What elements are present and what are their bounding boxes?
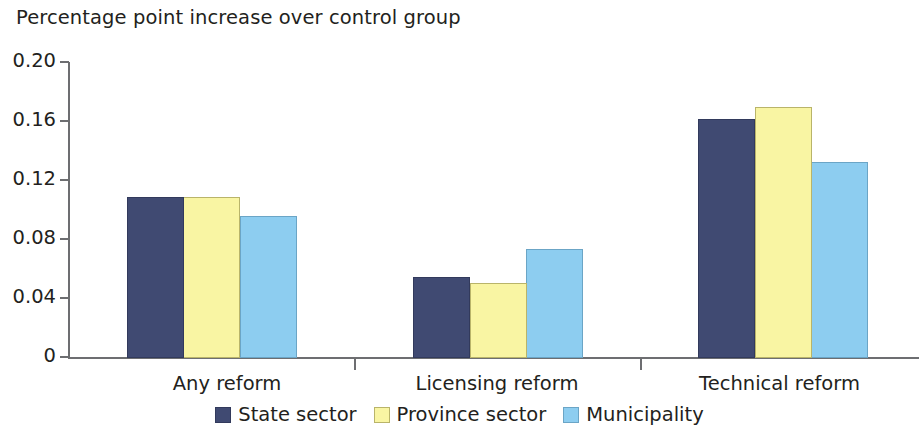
plot-area — [68, 62, 919, 358]
y-tick-label: 0.08 — [13, 228, 56, 248]
bar — [240, 216, 297, 358]
bar — [413, 277, 470, 358]
legend-label: Municipality — [586, 405, 703, 425]
bar — [755, 107, 812, 358]
legend-label: Province sector — [397, 405, 547, 425]
x-tick-label: Technical reform — [650, 372, 910, 395]
y-tick-label-wrap: 0.16 — [0, 110, 56, 130]
legend-item[interactable]: State sector — [215, 405, 356, 425]
bar — [526, 249, 583, 358]
y-tick-label-wrap: 0.04 — [0, 287, 56, 307]
chart-legend: State sectorProvince sectorMunicipality — [0, 405, 919, 425]
legend-swatch-icon — [215, 407, 231, 423]
bar-chart: Percentage point increase over control g… — [0, 0, 919, 436]
legend-swatch-icon — [563, 407, 579, 423]
y-tick-label-wrap: 0 — [0, 346, 56, 366]
bar — [811, 162, 868, 358]
legend-item[interactable]: Municipality — [563, 405, 703, 425]
legend-label: State sector — [238, 405, 356, 425]
chart-title: Percentage point increase over control g… — [16, 6, 461, 29]
x-tick-label: Licensing reform — [367, 372, 627, 395]
bar — [127, 197, 184, 358]
legend-swatch-icon — [374, 407, 390, 423]
y-tick-label: 0.12 — [13, 169, 56, 189]
y-tick-label: 0.04 — [13, 287, 56, 307]
bar — [183, 197, 240, 358]
x-tick-label: Any reform — [97, 372, 357, 395]
y-tick-label-wrap: 0.20 — [0, 51, 56, 71]
x-tick-mark — [354, 359, 356, 370]
y-tick-label-wrap: 0.12 — [0, 169, 56, 189]
bar — [470, 283, 527, 358]
y-tick-label-wrap: 0.08 — [0, 228, 56, 248]
bar — [698, 119, 755, 358]
y-tick-label: 0 — [44, 346, 56, 366]
legend-item[interactable]: Province sector — [374, 405, 547, 425]
y-tick-label: 0.16 — [13, 110, 56, 130]
y-tick-label: 0.20 — [13, 51, 56, 71]
x-tick-mark — [640, 359, 642, 370]
